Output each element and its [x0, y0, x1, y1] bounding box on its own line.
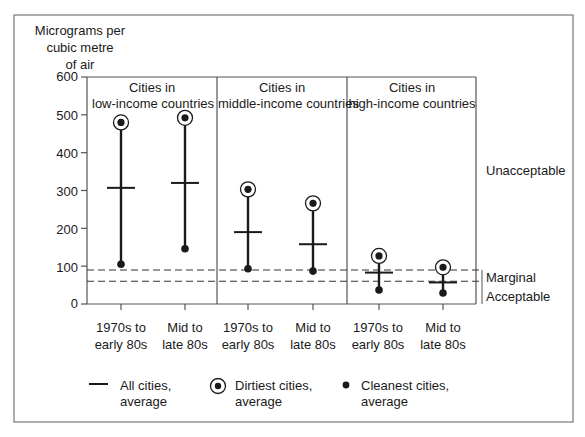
x-category-label: Mid to late 80s — [403, 319, 483, 353]
band-label-acceptable: Acceptable — [486, 290, 550, 304]
panel-title-line: high-income countries — [348, 96, 476, 112]
y-tick-label: 400 — [44, 147, 78, 161]
legend-item-all-cities: All cities, average — [88, 378, 171, 410]
x-category-line: Mid to — [403, 319, 483, 336]
x-category-line: late 80s — [403, 336, 483, 353]
dirtiest-cities-dot — [244, 186, 251, 193]
y-axis-label-line: Micrograms per — [20, 22, 140, 39]
y-tick-label: 600 — [44, 70, 78, 84]
cleanest-cities-dot — [181, 245, 189, 253]
panel-title-line: low-income countries — [92, 96, 212, 112]
legend-item-cleanest-cities: Cleanest cities, average — [339, 378, 449, 410]
legend-label-line: Cleanest cities, — [361, 378, 449, 394]
legend-label: All cities, average — [120, 378, 171, 410]
dirtiest-cities-dot — [181, 114, 188, 121]
y-tick-label: 100 — [44, 261, 78, 275]
horizontal-bar-icon — [88, 378, 110, 394]
circled-dot-icon — [207, 378, 229, 396]
cleanest-cities-dot — [244, 265, 252, 273]
legend-label-line: average — [361, 394, 449, 410]
cleanest-cities-dot — [439, 289, 447, 297]
cleanest-cities-dot — [309, 267, 317, 275]
legend-label: Dirtiest cities, average — [235, 378, 312, 410]
band-label-marginal: Marginal — [486, 271, 536, 285]
legend-label: Cleanest cities, average — [361, 378, 449, 410]
panel-title-high-income: Cities in high-income countries — [348, 80, 476, 112]
panel-title-line: Cities in — [218, 80, 346, 96]
panel-title-line: middle-income countries — [218, 96, 346, 112]
dirtiest-cities-dot — [309, 200, 316, 207]
cleanest-cities-dot — [375, 286, 383, 294]
y-tick-label: 0 — [44, 297, 78, 311]
y-tick-label: 200 — [44, 223, 78, 237]
y-axis-label-line: cubic metre — [20, 39, 140, 56]
dirtiest-cities-dot — [439, 264, 446, 271]
band-label-unacceptable: Unacceptable — [486, 164, 566, 178]
dirtiest-cities-dot — [375, 252, 382, 259]
y-axis-label-line: of air — [20, 56, 140, 73]
legend-item-dirtiest-cities: Dirtiest cities, average — [207, 378, 312, 410]
dirtiest-cities-dot — [117, 119, 124, 126]
legend-label-line: average — [235, 394, 312, 410]
y-tick-label: 300 — [44, 185, 78, 199]
legend-label-line: Dirtiest cities, — [235, 378, 312, 394]
cleanest-cities-dot — [117, 260, 125, 268]
outer-frame — [14, 15, 573, 422]
panel-title-middle-income: Cities in middle-income countries — [218, 80, 346, 112]
panel-title-line: Cities in — [348, 80, 476, 96]
y-tick-label: 500 — [44, 109, 78, 123]
legend-label-line: average — [120, 394, 171, 410]
panel-title-line: Cities in — [92, 80, 212, 96]
legend-label-line: All cities, — [120, 378, 171, 394]
y-axis-label: Micrograms per cubic metre of air — [20, 22, 140, 73]
panel-title-low-income: Cities in low-income countries — [92, 80, 212, 112]
dot-icon — [339, 378, 353, 394]
